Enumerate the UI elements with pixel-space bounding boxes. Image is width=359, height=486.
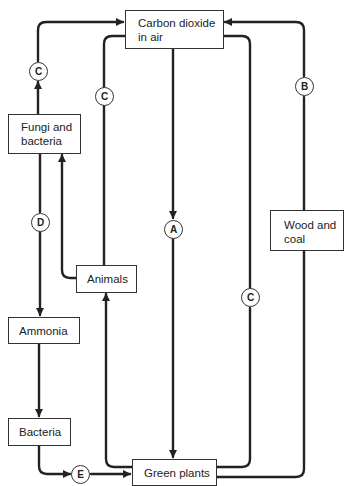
node-label: in air [138, 30, 223, 44]
node-label: Bacteria [19, 425, 70, 439]
node-label: bacteria [21, 134, 80, 148]
process-label-c-plants: C [241, 288, 260, 307]
node-green-plants: Green plants [132, 459, 217, 486]
node-label: Wood and [284, 218, 343, 232]
node-wood-and-coal: Wood and coal [270, 210, 344, 251]
node-label: Fungi and [21, 120, 80, 134]
node-label: Ammonia [19, 324, 79, 338]
node-fungi-and-bacteria: Fungi and bacteria [8, 114, 81, 154]
process-label-d: D [31, 213, 50, 232]
process-label-a: A [164, 220, 183, 239]
node-label: Animals [87, 272, 136, 286]
process-label-b: B [295, 77, 314, 96]
node-label: Carbon dioxide [138, 16, 223, 30]
node-carbon-dioxide-in-air: Carbon dioxide in air [125, 10, 224, 49]
node-ammonia: Ammonia [8, 317, 80, 344]
process-label-c-animals: C [95, 87, 114, 106]
process-label-e: E [71, 465, 90, 484]
node-label: coal [284, 232, 343, 246]
node-animals: Animals [76, 265, 137, 293]
node-bacteria: Bacteria [8, 418, 71, 446]
process-label-c-fungi: C [29, 62, 48, 81]
node-label: Green plants [144, 466, 216, 480]
